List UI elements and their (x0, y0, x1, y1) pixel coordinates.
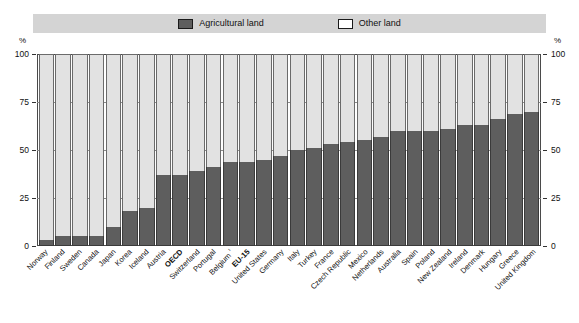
y-tick-mark-right-100 (543, 54, 547, 55)
y-axis-unit-right: % (554, 36, 561, 45)
bar-segment-agricultural-land (340, 142, 356, 246)
bar-column[interactable] (507, 54, 523, 246)
y-tick-mark-right-25 (543, 198, 547, 199)
bar-segment-other-land (390, 54, 406, 131)
bar-segment-other-land (239, 54, 255, 162)
bar-segment-agricultural-land (457, 125, 473, 246)
bar-segment-agricultural-land (189, 171, 205, 246)
bar-segment-other-land (323, 54, 339, 144)
bar-column[interactable] (39, 54, 55, 246)
bar-segment-agricultural-land (172, 175, 188, 246)
bar-column[interactable] (172, 54, 188, 246)
bar-segment-agricultural-land (139, 208, 155, 246)
bar-column[interactable] (440, 54, 456, 246)
bar-column[interactable] (55, 54, 71, 246)
y-tick-mark-right-50 (543, 150, 547, 151)
bar-segment-other-land (256, 54, 272, 160)
y-tick-mark-left-0 (32, 246, 36, 247)
bar-column[interactable] (139, 54, 155, 246)
bar-column[interactable] (407, 54, 423, 246)
bar-segment-other-land (440, 54, 456, 129)
bar-column[interactable] (290, 54, 306, 246)
bar-segment-other-land (457, 54, 473, 125)
y-tick-label-right-75: 75 (551, 97, 573, 107)
y-tick-label-left-100: 100 (9, 49, 29, 59)
bar-column[interactable] (223, 54, 239, 246)
bar-segment-agricultural-land (156, 175, 172, 246)
bar-column[interactable] (72, 54, 88, 246)
bar-column[interactable] (256, 54, 272, 246)
y-tick-label-left-25: 25 (9, 193, 29, 203)
bar-column[interactable] (156, 54, 172, 246)
bar-segment-agricultural-land (490, 119, 506, 246)
bar-segment-agricultural-land (89, 236, 105, 246)
legend-item-agricultural-land: Agricultural land (178, 19, 264, 29)
bar-segment-agricultural-land (407, 131, 423, 246)
bar-column[interactable] (490, 54, 506, 246)
bar-segment-other-land (39, 54, 55, 240)
bar-segment-other-land (139, 54, 155, 208)
bar-segment-other-land (55, 54, 71, 236)
bar-segment-agricultural-land (306, 148, 322, 246)
bar-column[interactable] (89, 54, 105, 246)
bar-series-container (37, 54, 541, 246)
bar-segment-agricultural-land (390, 131, 406, 246)
bar-segment-agricultural-land (122, 211, 138, 246)
bar-column[interactable] (474, 54, 490, 246)
bar-segment-agricultural-land (106, 227, 122, 246)
bar-segment-agricultural-land (206, 167, 222, 246)
bar-column[interactable] (122, 54, 138, 246)
chart-legend: Agricultural land Other land (33, 14, 546, 33)
y-axis-unit-left: % (19, 36, 26, 45)
bar-column[interactable] (373, 54, 389, 246)
x-axis-labels: NorwayFinlandSwedenCanadaJapanKoreaIcela… (37, 246, 541, 323)
y-tick-mark-right-75 (543, 102, 547, 103)
bar-segment-other-land (474, 54, 490, 125)
bar-column[interactable] (239, 54, 255, 246)
bar-column[interactable] (390, 54, 406, 246)
bar-column[interactable] (524, 54, 540, 246)
bar-segment-other-land (172, 54, 188, 175)
bar-column[interactable] (423, 54, 439, 246)
bar-column[interactable] (323, 54, 339, 246)
x-tick-label-japan: Japan (97, 248, 117, 268)
bar-segment-agricultural-land (440, 129, 456, 246)
bar-segment-agricultural-land (55, 236, 71, 246)
bar-column[interactable] (457, 54, 473, 246)
y-tick-mark-left-25 (32, 198, 36, 199)
bar-segment-other-land (357, 54, 373, 140)
bar-segment-other-land (373, 54, 389, 137)
bar-column[interactable] (357, 54, 373, 246)
bar-segment-other-land (524, 54, 540, 112)
bar-column[interactable] (106, 54, 122, 246)
bar-segment-other-land (290, 54, 306, 150)
bar-column[interactable] (306, 54, 322, 246)
bar-column[interactable] (189, 54, 205, 246)
bar-segment-other-land (189, 54, 205, 171)
legend-item-other-land: Other land (338, 19, 401, 29)
bar-segment-other-land (223, 54, 239, 162)
bar-segment-other-land (490, 54, 506, 119)
bar-segment-other-land (156, 54, 172, 175)
y-tick-label-right-50: 50 (551, 145, 573, 155)
bar-segment-agricultural-land (273, 156, 289, 246)
bar-column[interactable] (340, 54, 356, 246)
y-tick-label-left-75: 75 (9, 97, 29, 107)
y-tick-label-left-50: 50 (9, 145, 29, 155)
y-tick-label-right-100: 100 (551, 49, 573, 59)
bar-segment-agricultural-land (524, 112, 540, 246)
bar-segment-agricultural-land (323, 144, 339, 246)
filled-square-icon (178, 19, 193, 29)
y-tick-mark-left-50 (32, 150, 36, 151)
bar-segment-other-land (89, 54, 105, 236)
y-tick-mark-right-0 (543, 246, 547, 247)
bar-segment-agricultural-land (72, 236, 88, 246)
y-tick-mark-left-75 (32, 102, 36, 103)
bar-segment-agricultural-land (373, 137, 389, 246)
bar-segment-other-land (423, 54, 439, 131)
bar-column[interactable] (206, 54, 222, 246)
bar-segment-agricultural-land (507, 114, 523, 246)
bar-column[interactable] (273, 54, 289, 246)
plot-area-wrapper (37, 54, 541, 246)
y-tick-mark-left-100 (32, 54, 36, 55)
